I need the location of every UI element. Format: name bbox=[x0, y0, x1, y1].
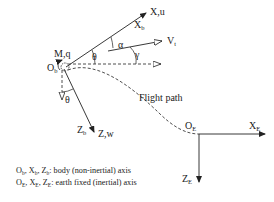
theta-upper-label: θ bbox=[92, 51, 97, 62]
zb-label: Zb bbox=[77, 124, 86, 136]
moment-label: M,q bbox=[54, 48, 70, 59]
coordinate-frame-diagram: X,u Xb Vt M,q Ob θ α γ θ Zb Z,w Flight p… bbox=[0, 0, 274, 202]
body-origin-label: Ob bbox=[47, 62, 57, 74]
gamma-label: γ bbox=[134, 49, 140, 60]
body-x-axis-label: X,u bbox=[150, 6, 165, 17]
theta-lower-label: θ bbox=[65, 94, 70, 105]
theta-lower-arc bbox=[62, 89, 73, 92]
xb-label: Xb bbox=[134, 19, 144, 31]
legend-line-body: Ob, Xb, Zb: body (non-inertial) axis bbox=[16, 166, 131, 176]
alpha-arc bbox=[111, 37, 113, 48]
body-origin-circle bbox=[61, 63, 69, 71]
body-z-axis-label: Z,w bbox=[98, 128, 115, 139]
earth-z-label: ZE bbox=[182, 173, 192, 185]
earth-x-label: XE bbox=[249, 120, 260, 132]
legend-line-earth: OE, XE, ZE: earth fixed (inertial) axis bbox=[16, 178, 137, 188]
flight-path-label: Flight path bbox=[139, 92, 183, 103]
velocity-label: Vt bbox=[167, 35, 176, 47]
alpha-label: α bbox=[118, 39, 124, 50]
earth-origin-label: OE bbox=[185, 120, 196, 132]
